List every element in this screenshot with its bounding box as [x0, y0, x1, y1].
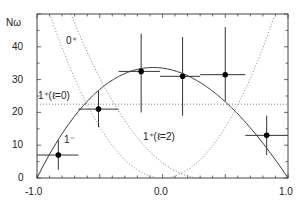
curve-1plus-l2 — [51, 17, 274, 178]
x-tick-label: -1.0 — [25, 186, 43, 197]
y-tick-label: 20 — [12, 106, 24, 117]
data-point — [78, 91, 118, 127]
y-tick-label: 0 — [18, 172, 24, 183]
data-point — [200, 27, 245, 101]
x-tick-label: 1.0 — [279, 186, 293, 197]
data-point — [245, 116, 288, 155]
x-tick-label: 0.0 — [154, 186, 168, 197]
y-tick-label: 10 — [12, 139, 24, 150]
curve-1minus — [37, 68, 288, 179]
y-axis-label: Nω — [6, 17, 21, 28]
y-tick-label: 40 — [12, 41, 24, 52]
label-1plus-l2: 1⁺(ℓ=2) — [143, 131, 175, 142]
chart: Nω 0 10 20 30 40 -1.0 0.0 1.0 0⁺ 1⁺(ℓ=0)… — [0, 0, 305, 204]
label-0plus: 0⁺ — [66, 35, 77, 46]
y-tick-label: 30 — [12, 74, 24, 85]
label-1plus-l0: 1⁺(ℓ=0) — [38, 90, 70, 101]
data-points — [37, 27, 288, 170]
label-1minus: 1⁻ — [64, 134, 75, 145]
